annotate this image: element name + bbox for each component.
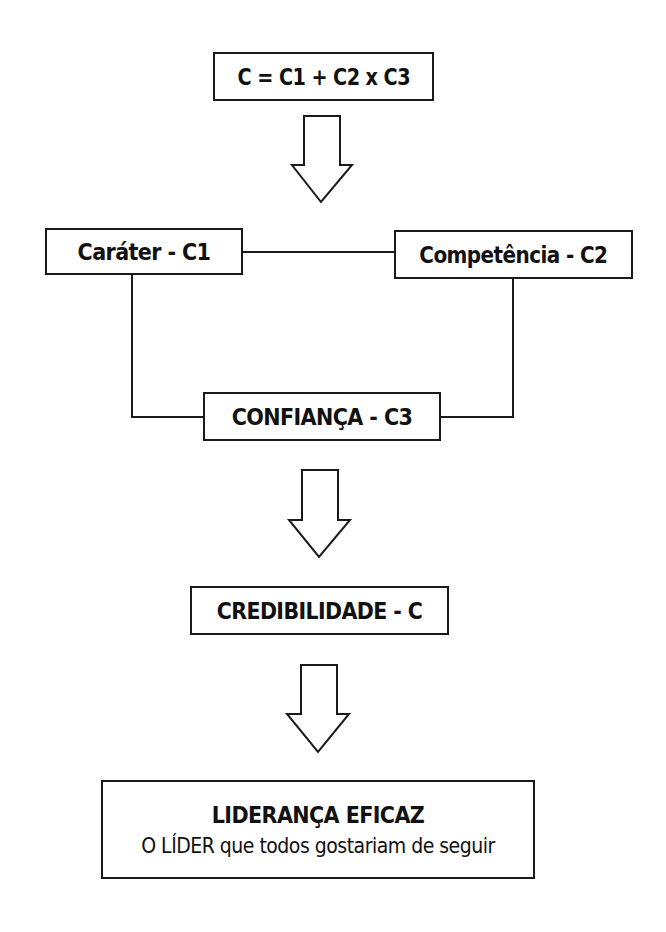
formula-box: C = C1 + C2 x C3 — [213, 52, 434, 101]
carater-box: Caráter - C1 — [45, 228, 243, 275]
credibilidade-label: CREDIBILIDADE - C — [217, 598, 423, 624]
formula-text: C = C1 + C2 x C3 — [237, 64, 409, 90]
connector-carater-confianca — [132, 275, 203, 417]
lideranca-box: LIDERANÇA EFICAZ O LÍDER que todos gosta… — [101, 780, 535, 879]
credibilidade-box: CREDIBILIDADE - C — [190, 586, 449, 635]
diagram-canvas: C = C1 + C2 x C3 Caráter - C1 Competênci… — [0, 0, 666, 932]
down-arrow-icon — [287, 665, 349, 752]
lideranca-title: LIDERANÇA EFICAZ — [212, 802, 424, 828]
competencia-label: Competência - C2 — [419, 242, 607, 268]
down-arrow-icon — [292, 116, 352, 202]
confianca-label: CONFIANÇA - C3 — [232, 404, 413, 430]
confianca-box: CONFIANÇA - C3 — [203, 392, 441, 441]
competencia-box: Competência - C2 — [394, 230, 633, 279]
lideranca-subtitle: O LÍDER que todos gostariam de seguir — [141, 834, 494, 858]
carater-label: Caráter - C1 — [78, 239, 211, 265]
connector-competencia-confianca — [441, 279, 513, 417]
down-arrow-icon — [289, 470, 350, 557]
